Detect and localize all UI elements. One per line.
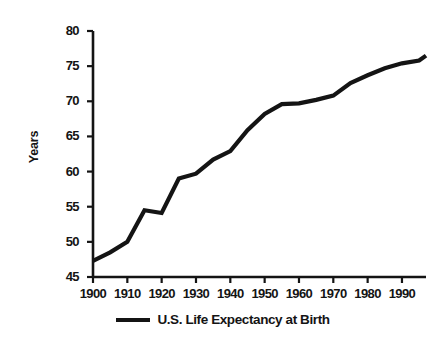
- x-axis-tick-label: 1990: [380, 286, 424, 301]
- data-line-us-life-expectancy: [93, 56, 426, 261]
- legend-item-label: U.S. Life Expectancy at Birth: [157, 312, 329, 327]
- y-axis-tick-label: 80: [49, 23, 79, 38]
- legend-line-swatch: [116, 318, 150, 322]
- y-axis-tick-label: 65: [49, 128, 79, 143]
- y-axis-tick-label: 70: [49, 93, 79, 108]
- y-axis-tick-label: 45: [49, 269, 79, 284]
- axis-lines: [93, 31, 426, 277]
- y-axis-tick-label: 60: [49, 164, 79, 179]
- y-axis-tick-label: 50: [49, 234, 79, 249]
- legend-item-us-life-expectancy: U.S. Life Expectancy at Birth: [116, 312, 329, 327]
- chart-figure: Years 4550556065707580 19001910192019301…: [0, 0, 446, 352]
- y-axis-tick-label: 55: [49, 199, 79, 214]
- chart-legend: U.S. Life Expectancy at Birth: [0, 312, 446, 327]
- y-axis-tick-label: 75: [49, 58, 79, 73]
